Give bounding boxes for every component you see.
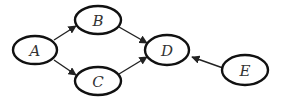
node-e-label: E — [239, 62, 251, 80]
edge-c-d — [119, 57, 147, 74]
node-e: E — [222, 55, 268, 85]
node-a-label: A — [28, 42, 41, 60]
node-b-label: B — [91, 12, 103, 30]
edge-e-d — [192, 57, 223, 68]
node-a: A — [13, 36, 57, 64]
edge-b-d — [119, 27, 147, 43]
node-c: C — [75, 67, 121, 95]
node-b: B — [75, 6, 121, 34]
node-d-label: D — [160, 42, 173, 60]
dag-diagram: A B C D E — [0, 0, 281, 99]
node-c-label: C — [92, 73, 104, 91]
node-d: D — [145, 35, 189, 65]
edge-a-b — [54, 26, 76, 40]
edge-a-c — [54, 60, 76, 75]
